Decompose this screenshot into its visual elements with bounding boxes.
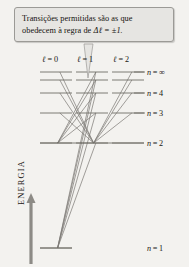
level-label-n-value: = 4	[151, 89, 163, 98]
callout-line-2: obedecem à regra de Δℓ = ±1.	[22, 25, 167, 37]
column-header-symbol-l0: ℓ	[42, 55, 45, 64]
callout-selection-rule: Δℓ = ±1.	[93, 26, 122, 35]
column-header-symbol-l2: ℓ	[113, 55, 116, 64]
column-header-value-l1: = 1	[82, 55, 93, 64]
level-label-n-value: = ∞	[151, 68, 165, 77]
callout-box: Transições permitidas são as que obedece…	[14, 7, 174, 42]
column-header-symbol-l1: ℓ	[77, 55, 80, 64]
callout-line-2-text: obedecem à regra de	[22, 26, 93, 35]
energy-axis-label: ENERGIA	[17, 147, 26, 219]
level-label-n-value: = 2	[151, 139, 163, 148]
transition-line	[94, 72, 132, 143]
level-label-n3: n = 3	[147, 109, 163, 118]
level-label-n-value: = 3	[151, 109, 163, 118]
energy-level-figure: ℓ= 0ℓ= 1ℓ= 2n = ∞n = 4n = 3n = 2n = 1 Tr…	[0, 0, 189, 267]
column-header-value-l0: = 0	[47, 55, 58, 64]
level-label-leaders	[134, 72, 145, 113]
transition-line	[58, 80, 96, 248]
column-header-l0: ℓ= 0	[42, 55, 58, 64]
level-label-n4: n = 4	[147, 89, 163, 98]
column-header-value-l2: = 2	[118, 55, 129, 64]
transition-lines-group	[58, 72, 132, 248]
level-label-n2: n = 2	[147, 139, 163, 148]
callout-line-1: Transições permitidas são as que	[22, 13, 167, 25]
level-label-n-value: = 1	[151, 244, 163, 253]
energy-arrow-head	[27, 193, 36, 203]
energy-arrow-group	[27, 193, 36, 264]
transition-line	[94, 80, 132, 143]
level-label-n∞: n = ∞	[147, 68, 165, 77]
level-label-n1: n = 1	[147, 244, 163, 253]
column-header-l2: ℓ= 2	[113, 55, 129, 64]
column-header-l1: ℓ= 1	[77, 55, 93, 64]
